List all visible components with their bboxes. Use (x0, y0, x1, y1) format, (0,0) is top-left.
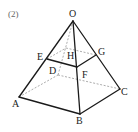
edge-OD (58, 21, 73, 75)
label-E: E (37, 51, 43, 62)
label-O: O (69, 8, 76, 19)
visible-edges (19, 21, 120, 114)
problem-number: (2) (8, 9, 19, 19)
edge-DC (58, 75, 120, 89)
label-H: H (67, 50, 74, 61)
edge-AD (19, 75, 58, 97)
edge-BC (80, 89, 120, 114)
pyramid-diagram: (2) O A B C D E F G H (0, 0, 138, 132)
label-G: G (98, 46, 105, 57)
label-A: A (12, 98, 20, 109)
label-B: B (76, 115, 83, 126)
label-C: C (121, 86, 128, 97)
label-F: F (82, 69, 88, 80)
edge-OA (19, 21, 73, 97)
edge-AB (19, 97, 80, 114)
edge-FG (77, 55, 96, 67)
label-D: D (49, 65, 56, 76)
